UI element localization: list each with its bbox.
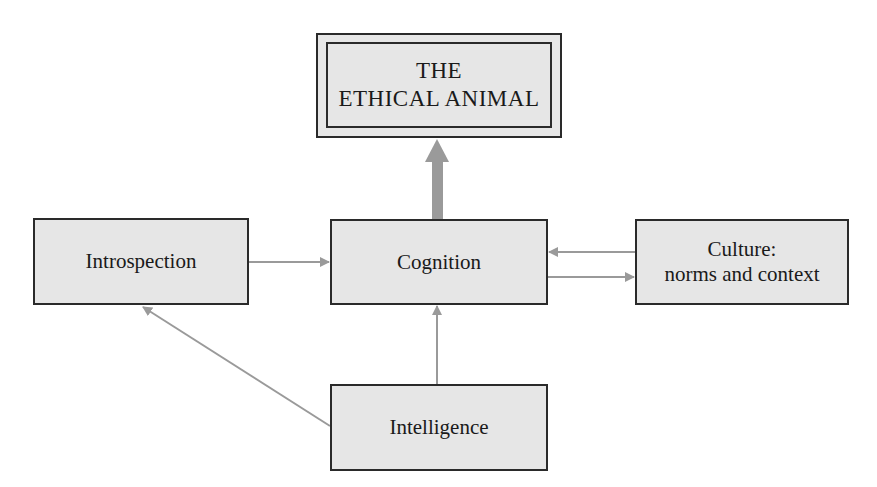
arrow-cognition-to-ethical-animal	[425, 139, 449, 219]
node-culture: Culture: norms and context	[635, 219, 849, 305]
arrow-intelligence-to-introspection	[143, 307, 330, 426]
introspection-label: Introspection	[86, 249, 197, 274]
node-intelligence: Intelligence	[330, 384, 548, 471]
intelligence-label: Intelligence	[389, 415, 488, 440]
culture-line1: Culture:	[708, 237, 777, 262]
node-introspection: Introspection	[33, 218, 249, 305]
node-cognition: Cognition	[330, 219, 548, 305]
culture-line2: norms and context	[664, 262, 819, 287]
node-ethical-animal-inner: THE ETHICAL ANIMAL	[326, 42, 552, 128]
ethical-animal-line1: THE	[416, 57, 462, 85]
ethical-animal-line2: ETHICAL ANIMAL	[339, 85, 540, 113]
cognition-label: Cognition	[397, 250, 481, 275]
node-ethical-animal: THE ETHICAL ANIMAL	[316, 33, 562, 138]
